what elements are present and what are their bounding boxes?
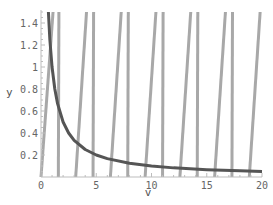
branch-line	[215, 12, 226, 177]
x-tick-label: 0	[38, 180, 44, 191]
branch-line	[58, 12, 59, 177]
branch-line	[110, 12, 121, 177]
y-axis-label: y	[6, 86, 13, 99]
branch-line	[76, 12, 87, 177]
y-tick-label: 1.2	[20, 40, 38, 51]
x-tick-label: 5	[93, 180, 99, 191]
y-tick-label: 1	[32, 62, 38, 73]
branch-line	[232, 12, 233, 177]
y-tick-label: 1.4	[20, 18, 38, 29]
branch-line	[128, 12, 129, 177]
y-tick-label: 0.8	[20, 84, 38, 95]
x-tick-label: 20	[256, 180, 268, 191]
branch-line	[249, 12, 260, 177]
x-axis-label: v	[145, 186, 152, 199]
plot-lines	[41, 12, 260, 177]
y-tick-label: 0.4	[20, 128, 38, 139]
branch-line	[145, 12, 156, 177]
branch-line	[163, 12, 164, 177]
branch-line	[197, 12, 198, 177]
branch-line	[180, 12, 191, 177]
y-tick-label: 0.6	[20, 106, 38, 117]
y-tick-label: 0.2	[20, 150, 38, 161]
x-tick-label: 15	[201, 180, 213, 191]
chart: 051015200.20.40.60.811.21.4 v y	[0, 0, 273, 205]
